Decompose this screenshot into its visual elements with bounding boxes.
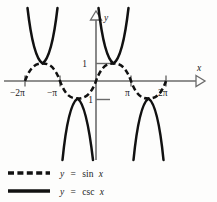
x-tick-label-2pi: 2π — [158, 88, 168, 98]
legend-sin-var: x — [98, 169, 104, 179]
legend-sin-y: y — [59, 169, 65, 179]
legend-csc-fn: csc — [82, 187, 94, 197]
y-tick-label-one-negative: 1 — [88, 95, 93, 105]
x-axis-label: x — [196, 63, 202, 73]
y-tick-label-one-positive: 1 — [82, 59, 87, 69]
x-tick-label-minus-pi: −π — [47, 88, 57, 98]
legend-sin-fn: sin — [82, 169, 93, 179]
legend-csc-y: y — [59, 187, 65, 197]
legend-csc-equals: = — [71, 187, 76, 197]
x-tick-label-minus-2pi: −2π — [10, 88, 25, 98]
y-axis-label: y — [103, 13, 109, 23]
legend-sin-equals: = — [71, 169, 76, 179]
legend-csc-var: x — [99, 187, 105, 197]
trig-graph-figure: −2π −π π 2π 1 1 x y y = sin x y = csc x — [0, 0, 217, 202]
x-tick-label-pi: π — [125, 88, 130, 98]
